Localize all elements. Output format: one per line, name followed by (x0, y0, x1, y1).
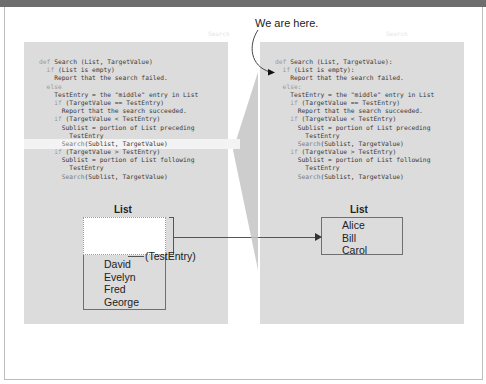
code-text: TestEntry (305, 164, 339, 171)
code-keyword: else (47, 83, 62, 90)
code-line: TestEntry = the "middle" entry in List (39, 91, 225, 99)
list-item: George (84, 296, 139, 309)
list-item: Carol (322, 244, 402, 257)
code-keyword: if (283, 66, 294, 73)
test-entry-label: (TestEntry) (145, 250, 196, 262)
code-line: Report that the search succeeded. (275, 107, 461, 115)
code-text: (TargetValue == TestEntry) (66, 99, 165, 106)
code-call: Search (62, 173, 85, 180)
code-line: if (TargetValue == TestEntry) (39, 99, 225, 107)
code-text: (TargetValue < TestEntry) (302, 115, 397, 122)
code-keyword: else: (283, 83, 302, 90)
code-line: TestEntry (39, 132, 225, 140)
left-activation-panel: def Search (List, TargetValue) if (List … (24, 42, 228, 324)
code-text: TestEntry = the "middle" entry in List (54, 91, 198, 98)
code-line: Report that the search succeeded. (39, 107, 225, 115)
code-line: if (List is empty): (275, 66, 461, 74)
left-list-items: DavidEvelynFredGeorge (84, 258, 139, 308)
right-list-title: List (350, 204, 368, 215)
list-item: Evelyn (84, 271, 139, 284)
list-item: David (84, 258, 139, 271)
code-line: if (TargetValue < TestEntry) (39, 115, 225, 123)
code-keyword: if (47, 66, 58, 73)
code-line: Search(Sublist, TargetValue) (39, 173, 225, 181)
code-line: Report that the search failed. (275, 74, 461, 82)
code-text: Report that the search succeeded. (298, 107, 423, 114)
code-line: if (TargetValue < TestEntry) (275, 115, 461, 123)
code-line: Sublist = portion of List following (39, 156, 225, 164)
code-text: Sublist = portion of List preceding (62, 124, 195, 131)
code-line: TestEntry (275, 164, 461, 172)
code-keyword: def (39, 58, 54, 65)
code-line: if (TargetValue > TestEntry) (275, 148, 461, 156)
code-line: TestEntry = the "middle" entry in List (275, 91, 461, 99)
code-text: TestEntry (69, 132, 103, 139)
top-border-bar (0, 0, 486, 7)
ghost-label-left: Search (208, 30, 230, 37)
code-text: (TargetValue < TestEntry) (66, 115, 161, 122)
right-pseudocode: def Search (List, TargetValue): if (List… (275, 58, 461, 181)
code-text: TestEntry (305, 132, 339, 139)
code-text: (TargetValue == TestEntry) (302, 99, 401, 106)
code-keyword: def (275, 58, 290, 65)
list-item: Alice (322, 219, 402, 232)
code-text: TestEntry (69, 164, 103, 171)
right-activation-panel: def Search (List, TargetValue): if (List… (260, 42, 464, 324)
code-line: else: (275, 83, 461, 91)
code-line: Search(Sublist, TargetValue) (275, 173, 461, 181)
code-line: def Search (List, TargetValue): (275, 58, 461, 66)
code-line: else (39, 83, 225, 91)
code-text: Sublist = portion of List following (62, 156, 195, 163)
code-keyword: if (290, 99, 301, 106)
list-item: Bill (322, 232, 402, 245)
right-list-box: AliceBillCarol (321, 217, 403, 255)
code-line: Search(Sublist, TargetValue) (275, 140, 461, 148)
code-text: (Sublist, TargetValue) (321, 173, 404, 180)
code-line: if (TargetValue == TestEntry) (275, 99, 461, 107)
ghost-label-right: Search (386, 30, 408, 37)
left-list-title: List (114, 204, 132, 215)
code-text: (TargetValue > TestEntry) (302, 148, 397, 155)
code-text: Sublist = portion of List preceding (298, 124, 431, 131)
code-text: (Sublist, TargetValue) (85, 173, 168, 180)
code-line: if (List is empty) (39, 66, 225, 74)
code-keyword: if (54, 99, 65, 106)
left-list-box: DavidEvelynFredGeorge (83, 217, 166, 310)
code-keyword: if (290, 148, 301, 155)
list-item: Fred (84, 283, 139, 296)
code-text: (List is empty) (58, 66, 115, 73)
test-entry-pointer-line (128, 256, 144, 257)
code-line: TestEntry (39, 164, 225, 172)
code-keyword: if (290, 115, 301, 122)
code-line: Sublist = portion of List preceding (275, 124, 461, 132)
sublist-connector-line (174, 237, 315, 238)
left-pseudocode: def Search (List, TargetValue) if (List … (39, 58, 225, 181)
code-line: Report that the search failed. (39, 74, 225, 82)
right-list-items: AliceBillCarol (322, 219, 402, 257)
code-text: (Sublist, TargetValue) (321, 140, 404, 147)
code-line: def Search (List, TargetValue) (39, 58, 225, 66)
code-text: Sublist = portion of List following (298, 156, 431, 163)
code-call: Search (298, 173, 321, 180)
code-line: Sublist = portion of List preceding (39, 124, 225, 132)
code-text: (Sublist, TargetValue) (85, 140, 168, 147)
code-text: Search (List, TargetValue) (54, 58, 153, 65)
code-text: Search (List, TargetValue): (290, 58, 392, 65)
code-line: TestEntry (275, 132, 461, 140)
code-call: Search (298, 140, 321, 147)
code-text: (List is empty): (294, 66, 355, 73)
code-line-highlighted: Search(Sublist, TargetValue) (39, 140, 225, 148)
code-text: Report that the search failed. (290, 74, 404, 81)
code-keyword: if (54, 148, 65, 155)
code-line: if (TargetValue > TestEntry) (39, 148, 225, 156)
code-keyword: if (54, 115, 65, 122)
code-line: Sublist = portion of List following (275, 156, 461, 164)
code-text: TestEntry = the "middle" entry in List (290, 91, 434, 98)
code-text: Report that the search succeeded. (62, 107, 187, 114)
code-call: Search (62, 140, 85, 147)
code-text: (TargetValue > TestEntry) (66, 148, 161, 155)
code-text: Report that the search failed. (54, 74, 168, 81)
callout-label: We are here. (255, 17, 318, 29)
